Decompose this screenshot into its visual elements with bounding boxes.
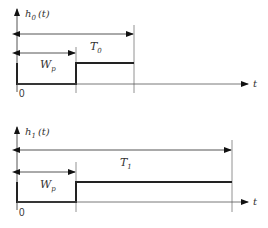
pulse-diagram: h0(t) T0 Wp t 0 h1(t) T1 Wp t 0 xyxy=(0,0,268,228)
waveform xyxy=(17,63,134,84)
bottom-waveform-h1: h1(t) T1 Wp t 0 xyxy=(17,126,258,218)
top-waveform-h0: h0(t) T0 Wp t 0 xyxy=(17,8,258,99)
pulse-width-label: Wp xyxy=(40,178,56,193)
origin-label: 0 xyxy=(19,88,25,99)
x-axis-label: t xyxy=(253,196,258,207)
origin-label: 0 xyxy=(19,207,25,218)
period-label: T1 xyxy=(120,156,132,171)
x-axis-label: t xyxy=(253,78,258,89)
y-axis-label: h0(t) xyxy=(25,8,50,22)
pulse-width-label: Wp xyxy=(40,58,56,73)
period-label: T0 xyxy=(90,40,102,55)
y-axis-label: h1(t) xyxy=(25,126,50,140)
